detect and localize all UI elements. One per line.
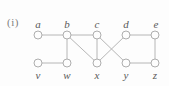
vertex-z: [151, 59, 159, 67]
vertex-a: [34, 31, 42, 39]
vertex-label-e: e: [154, 18, 159, 30]
vertex-label-c: c: [95, 18, 100, 30]
vertex-label-d: d: [123, 18, 129, 30]
graph-svg: abcdevwxyz: [0, 0, 169, 86]
vertex-label-w: w: [63, 69, 71, 81]
vertex-label-z: z: [152, 69, 158, 81]
graph-figure: (i) abcdevwxyz: [0, 0, 169, 86]
vertex-e: [151, 31, 159, 39]
vertex-c: [93, 31, 101, 39]
vertex-v: [34, 59, 42, 67]
vertex-y: [122, 59, 130, 67]
vertex-x: [93, 59, 101, 67]
vertex-label-b: b: [64, 18, 70, 30]
vertex-label-v: v: [36, 69, 41, 81]
vertex-label-y: y: [123, 69, 129, 81]
vertex-d: [122, 31, 130, 39]
vertex-w: [63, 59, 71, 67]
vertex-label-a: a: [35, 18, 41, 30]
vertex-label-x: x: [94, 69, 100, 81]
vertex-b: [63, 31, 71, 39]
edge-b-x: [67, 35, 97, 63]
